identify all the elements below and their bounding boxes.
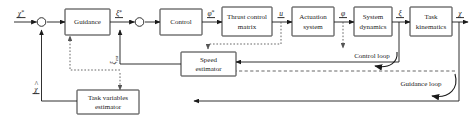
block-task-variables-estimator-label-line2: estimator (95, 103, 122, 111)
block-control[interactable]: Control (160, 9, 202, 35)
signal-label-phi: φ (339, 9, 347, 18)
sum-junction-control[interactable] (135, 18, 144, 27)
control-loop-text: Control loop (354, 52, 390, 60)
block-thrust-control-matrix-label-line2: matrix (238, 23, 257, 31)
signal-label-chi-ref: χ* (17, 9, 26, 18)
signal-label-chi-est: χ ^ (33, 80, 40, 94)
block-system-dynamics-label-line2: dynamics (360, 23, 387, 31)
block-actuation-system-label-line1: Actuation (299, 13, 327, 21)
block-control-label: Control (170, 18, 191, 26)
block-thrust-control-matrix[interactable]: Thrust control matrix (222, 7, 272, 36)
block-task-kinematics-label-line1: Task (424, 13, 438, 21)
signal-label-u: u (278, 9, 285, 18)
diagram-canvas: Guidance Control Thrust control matrix A… (0, 0, 471, 124)
block-system-dynamics-label-line1: System (363, 13, 384, 21)
block-actuation-system-label-line2: system (303, 23, 323, 31)
block-task-variables-estimator[interactable]: Task variables estimator (77, 90, 139, 114)
block-actuation-system[interactable]: Actuation system (292, 7, 334, 36)
signal-xi-est-mark: est (114, 55, 119, 61)
signal-xi-base: ξ (398, 9, 402, 18)
block-thrust-control-matrix-label-line1: Thrust control (227, 13, 267, 21)
label-control-loop: Control loop (354, 52, 390, 60)
signal-label-xi: ξ (396, 9, 404, 18)
block-task-variables-estimator-label-line1: Task variables (88, 94, 128, 102)
block-guidance-label: Guidance (74, 18, 101, 26)
block-speed-estimator-label-line1: Speed (200, 56, 218, 64)
block-task-kinematics-label-line2: kinematics (416, 23, 447, 31)
signal-label-xi-est: ξest (109, 55, 119, 64)
svg-text:φ*: φ* (207, 9, 214, 18)
block-speed-estimator[interactable]: Speed estimator (181, 52, 236, 76)
svg-text:χ*: χ* (17, 9, 24, 18)
svg-text:ξest: ξest (109, 55, 119, 64)
sum-junction-guidance[interactable] (37, 18, 46, 27)
signal-phi-ref-mark: * (212, 9, 215, 15)
signal-phi-base: φ (341, 9, 345, 18)
signal-chi-ref-mark: * (21, 9, 24, 15)
control-block-diagram: Guidance Control Thrust control matrix A… (0, 0, 471, 124)
svg-text:ξ*: ξ* (116, 9, 122, 18)
label-guidance-loop: Guidance loop (400, 80, 442, 88)
block-guidance[interactable]: Guidance (65, 9, 110, 35)
signal-label-xi-ref: ξ* (115, 9, 123, 18)
path-task-estimator-to-sum1 (42, 30, 78, 101)
signal-u-base: u (279, 9, 283, 18)
block-task-kinematics[interactable]: Task kinematics (410, 7, 452, 36)
signal-label-chi: χ (456, 9, 464, 18)
signal-chi-base: χ (457, 9, 462, 18)
guidance-loop-text: Guidance loop (400, 80, 442, 88)
block-system-dynamics[interactable]: System dynamics (354, 7, 392, 36)
signal-xi-ref-mark: * (119, 9, 122, 15)
signal-chi-est-mark: ^ (34, 80, 38, 89)
block-speed-estimator-label-line2: estimator (195, 65, 222, 73)
signal-label-phi-ref: φ* (207, 9, 215, 18)
